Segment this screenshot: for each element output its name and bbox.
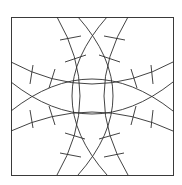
block-frame	[12, 18, 174, 176]
quilt-block-diagram	[0, 0, 182, 185]
quilt-block-svg	[0, 0, 182, 185]
